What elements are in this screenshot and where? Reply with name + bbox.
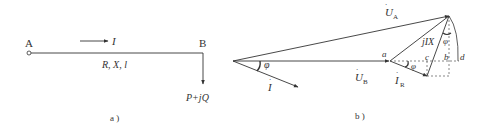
phi-angle-arc-top <box>443 33 451 35</box>
caption-b: b ) <box>355 111 365 121</box>
point-b-label: b <box>444 52 449 62</box>
phi-angle-arc-IR <box>405 61 408 67</box>
jIX-label: jIX <box>420 36 435 47</box>
caption-a: a ) <box>110 113 119 123</box>
phi-label-top: φ <box>443 36 448 46</box>
current-label: I <box>111 35 117 47</box>
point-a-label: a <box>382 49 387 59</box>
point-c-label: c <box>425 52 429 62</box>
line-params-label: R, X, l <box>101 59 127 70</box>
phasor-diagram: A B I R, X, l P+jQ a ) · U A · U B · <box>0 0 486 123</box>
I-label: I <box>267 81 273 93</box>
phi-angle-arc <box>257 61 260 71</box>
UB-sub: B <box>363 78 368 86</box>
phi-label: φ <box>264 59 270 70</box>
UA-sub: A <box>393 13 398 21</box>
arc-d <box>449 16 458 61</box>
load-label: P+jQ <box>185 92 210 103</box>
jIX-phasor <box>390 16 449 61</box>
node-a-terminal <box>27 51 31 55</box>
UA-phasor <box>233 16 449 61</box>
panel-b: · U A · U B · I · I R jIX φ φ φ a c b d … <box>233 0 465 121</box>
panel-a: A B I R, X, l P+jQ a ) <box>25 35 210 123</box>
IR-sub: R <box>400 81 405 89</box>
point-d-label: d <box>460 52 465 62</box>
node-a-label: A <box>25 37 33 49</box>
phi-label-IR: φ <box>411 61 416 71</box>
node-b-label: B <box>199 37 206 49</box>
